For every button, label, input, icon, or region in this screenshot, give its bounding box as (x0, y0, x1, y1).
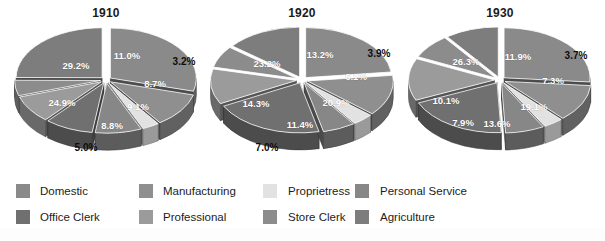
legend-label: Store Clerk (288, 210, 346, 224)
pie-slices-1920 (211, 27, 394, 150)
pie-svg-1910: 29.2% 11.0% 3.2% 8.7% 9.1% 8.8% 5.0% 24.… (14, 22, 198, 152)
legend-label: Domestic (40, 184, 88, 198)
slice-value-proprietress: 3.9% (368, 48, 391, 59)
slice-value-manufacturing: 11.0% (114, 50, 141, 61)
pie-1910: 29.2% 11.0% 3.2% 8.7% 9.1% 8.8% 5.0% 24.… (14, 22, 198, 152)
slice-value-manufacturing: 11.9% (505, 51, 532, 62)
legend-item-domestic[interactable]: Domestic (16, 180, 88, 202)
slice-value-professional: 11.4% (287, 119, 314, 130)
slice-value-agriculture: 14.3% (243, 98, 270, 109)
slice-value-office-clerk: 19.1% (521, 101, 548, 112)
chart-title-1930: 1930 (400, 6, 600, 20)
legend-swatch-icon (16, 184, 30, 198)
slice-value-manufacturing: 13.2% (307, 49, 334, 60)
slice-value-agriculture: 10.1% (433, 95, 460, 106)
slice-value-proprietress: 3.2% (173, 56, 196, 67)
pie-svg-1920: 23.2% 13.2% 3.9% 6.1% 20.9% 11.4% 7.0% 1… (210, 22, 394, 152)
chart-title-1920: 1920 (202, 6, 402, 20)
slice-value-domestic: 23.2% (254, 58, 281, 69)
pie-svg-1930: 26.3% 11.9% 3.7% 7.3% 19.1% 13.6% 7.9% 1… (408, 22, 592, 152)
slice-value-personal-service: 8.7% (144, 78, 166, 89)
legend-item-office-clerk[interactable]: Office Clerk (16, 206, 100, 228)
slice-value-domestic: 29.2% (63, 60, 90, 71)
legend-item-manufacturing[interactable]: Manufacturing (139, 180, 236, 202)
legend-label: Office Clerk (40, 210, 100, 224)
slice-value-store-clerk: 5.0% (75, 142, 98, 153)
legend-item-personal-service[interactable]: Personal Service (355, 180, 467, 202)
pie-slices-1930 (409, 27, 591, 150)
slice-value-agriculture: 24.9% (49, 97, 76, 108)
legend-label: Professional (163, 210, 226, 224)
legend-swatch-icon (263, 210, 277, 224)
chart-panel-1910: 1910 29.2% 11.0% 3.2% 8.7% 9.1% 8.8% 5.0… (6, 0, 206, 172)
legend-item-store-clerk[interactable]: Store Clerk (263, 206, 346, 228)
legend-swatch-icon (139, 184, 153, 198)
slice-value-office-clerk: 20.9% (323, 97, 350, 108)
slice-value-office-clerk: 9.1% (127, 101, 149, 112)
slice-value-professional: 8.8% (101, 120, 123, 131)
legend-row: Office Clerk Professional Store Clerk Ag… (0, 206, 605, 232)
chart-title-1910: 1910 (6, 6, 206, 20)
legend-item-professional[interactable]: Professional (139, 206, 226, 228)
slice-value-domestic: 26.3% (453, 56, 480, 67)
chart-panel-1920: 1920 23.2% 13.2% 3.9% 6.1% 20.9% 11.4% 7… (202, 0, 402, 172)
pie-1920: 23.2% 13.2% 3.9% 6.1% 20.9% 11.4% 7.0% 1… (210, 22, 394, 152)
legend-item-proprietress[interactable]: Proprietress (263, 180, 350, 202)
legend-row: Domestic Manufacturing Proprietress Pers… (0, 180, 605, 206)
chart-panel-1930: 1930 26.3% 11.9% 3.7% 7.3% 19.1% 13.6% 7… (400, 0, 600, 172)
legend-swatch-icon (263, 184, 277, 198)
pie-slices-1910 (15, 28, 197, 150)
slice-value-store-clerk: 7.9% (452, 117, 474, 128)
legend-label: Agriculture (380, 210, 435, 224)
legend: Domestic Manufacturing Proprietress Pers… (0, 176, 605, 238)
slice-value-proprietress: 3.7% (565, 50, 588, 61)
pie-1930: 26.3% 11.9% 3.7% 7.3% 19.1% 13.6% 7.9% 1… (408, 22, 592, 152)
legend-label: Proprietress (288, 184, 350, 198)
legend-swatch-icon (355, 210, 369, 224)
slice-value-personal-service: 7.3% (542, 75, 564, 86)
legend-label: Personal Service (380, 184, 467, 198)
pie-chart-figure: 1910 29.2% 11.0% 3.2% 8.7% 9.1% 8.8% 5.0… (0, 0, 605, 241)
legend-swatch-icon (355, 184, 369, 198)
legend-label: Manufacturing (163, 184, 236, 198)
legend-swatch-icon (139, 210, 153, 224)
slice-value-personal-service: 6.1% (345, 71, 367, 82)
slice-value-store-clerk: 7.0% (256, 142, 279, 153)
legend-swatch-icon (16, 210, 30, 224)
slice-value-professional: 13.6% (484, 118, 511, 129)
legend-item-agriculture[interactable]: Agriculture (355, 206, 435, 228)
